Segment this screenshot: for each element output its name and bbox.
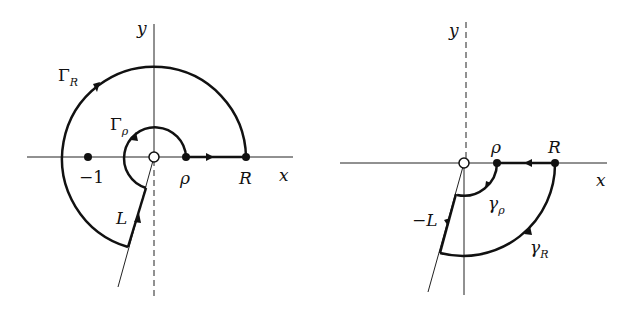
point-rho [182, 153, 190, 161]
point-minus-one [84, 153, 92, 161]
origin-hollow [149, 152, 159, 162]
rho-label: ρ [490, 137, 501, 157]
R-label: R [238, 168, 252, 188]
arrow-icon [524, 159, 532, 167]
y-label: y [448, 20, 459, 40]
point-R [242, 153, 250, 161]
y-label: y [136, 18, 147, 38]
contour-diagrams: y x ΓR Γρ −1 ρ R L y x ρ R −L γρ γ [0, 0, 625, 321]
x-label: x [596, 170, 606, 190]
x-label: x [279, 165, 289, 185]
arrow-icon [206, 153, 214, 161]
gamma-R-label: γR [530, 237, 548, 261]
right-diagram: y x ρ R −L γρ γR [340, 20, 607, 295]
gamma-R-label: ΓR [58, 65, 78, 89]
point-R [551, 159, 559, 167]
rho-label: ρ [179, 168, 190, 188]
R-label: R [547, 137, 561, 157]
minus-L-label: −L [412, 210, 438, 230]
point-rho [493, 159, 501, 167]
minus-one-label: −1 [79, 167, 104, 187]
L-label: L [115, 208, 127, 228]
gamma-rho-label: Γρ [110, 114, 129, 138]
left-diagram: y x ΓR Γρ −1 ρ R L [27, 18, 293, 298]
gamma-rho-label: γρ [488, 193, 505, 217]
origin-hollow [459, 158, 469, 168]
